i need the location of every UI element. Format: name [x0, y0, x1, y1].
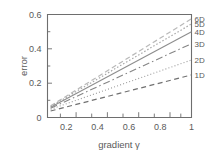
x-tick-label: 1: [189, 122, 194, 132]
x-tick-label: 0.2: [60, 122, 73, 132]
series-layer: [51, 19, 192, 111]
series-line-3d: [51, 44, 192, 109]
series-labels: 6D5D4D3D2D1D: [195, 15, 205, 80]
series-line-4d: [51, 32, 192, 108]
y-tick-label: 0: [36, 113, 41, 123]
y-axis-ticks: [48, 15, 53, 118]
x-axis-title: gradient γ: [98, 139, 140, 150]
y-tick-label: 0.6: [29, 10, 42, 20]
x-axis-ticks: [60, 112, 191, 117]
series-line-2d: [51, 60, 192, 109]
x-tick-label: 0.4: [91, 122, 104, 132]
series-line-5d: [51, 24, 192, 107]
x-tick-label: 0.8: [154, 122, 167, 132]
plot-box: [48, 15, 192, 118]
x-tick-label: 0.6: [123, 122, 136, 132]
series-label-2d: 2D: [195, 56, 205, 65]
plot-frame: [48, 15, 192, 118]
series-label-1d: 1D: [195, 71, 205, 80]
series-label-4d: 4D: [195, 28, 205, 37]
y-tick-label: 0.4: [29, 44, 42, 54]
y-tick-label: 0.2: [29, 78, 42, 88]
y-axis-title: error: [18, 56, 29, 76]
series-label-3d: 3D: [195, 40, 205, 49]
x-tick-labels: 0.20.40.60.81: [60, 122, 194, 132]
line-chart: 00.20.40.6 0.20.40.60.81 6D5D4D3D2D1D er…: [0, 0, 218, 157]
y-tick-labels: 00.20.40.6: [29, 10, 42, 123]
chart-figure: 00.20.40.6 0.20.40.60.81 6D5D4D3D2D1D er…: [0, 0, 218, 157]
